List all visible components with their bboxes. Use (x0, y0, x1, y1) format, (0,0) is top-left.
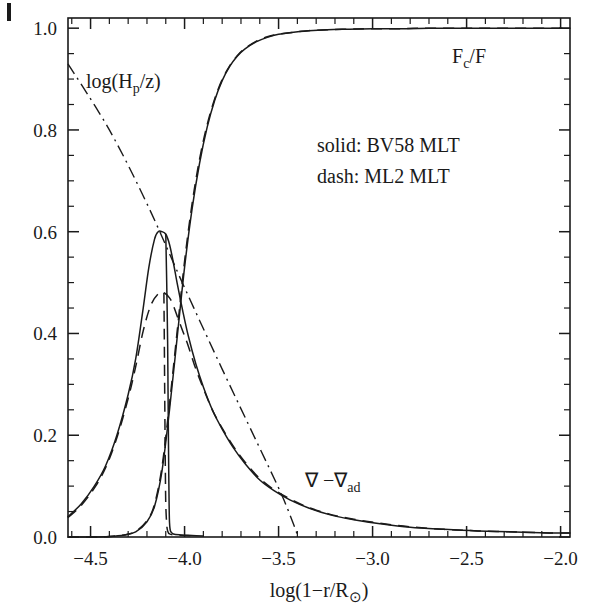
y-tick-label: 1.0 (33, 18, 57, 39)
corner-artifact-mark (7, 3, 11, 21)
figure-container: −4.5−4.0−3.5−3.0−2.5−2.0 0.00.20.40.60.8… (0, 0, 590, 612)
x-tick-label: −2.0 (543, 548, 577, 569)
x-tick-label: −3.5 (261, 548, 295, 569)
annotation-text: F (452, 45, 463, 67)
annotation-subscript: p (133, 81, 140, 96)
y-tick-label: 0.0 (33, 527, 57, 548)
plot-canvas: −4.5−4.0−3.5−3.0−2.5−2.0 0.00.20.40.60.8… (0, 0, 590, 612)
y-tick-label: 0.8 (33, 120, 57, 141)
x-tick-label: −2.5 (449, 548, 483, 569)
x-label-minus: − (312, 579, 323, 601)
x-tick-label: −4.0 (167, 548, 201, 569)
x-tick-label: −3.0 (355, 548, 389, 569)
annotation-text: /z) (140, 70, 161, 93)
annotation-text: log(H (86, 70, 133, 93)
x-label-text: ) (362, 579, 369, 602)
legend-entry-dash: dash: ML2 MLT (317, 165, 450, 187)
x-label-text: r/R (323, 579, 349, 601)
y-tick-label: 0.6 (33, 222, 57, 243)
y-tick-label: 0.2 (33, 425, 57, 446)
annotation-text: /F (469, 45, 486, 67)
solar-symbol-icon: ⊙ (349, 589, 362, 605)
annotation-text: ∇ −∇ (304, 469, 348, 491)
y-tick-label: 0.4 (33, 323, 57, 344)
x-label-text: log(1 (270, 579, 312, 602)
annotation-subscript: ad (347, 480, 360, 495)
legend-entry-solid: solid: BV58 MLT (317, 134, 460, 156)
x-tick-label: −4.5 (73, 548, 107, 569)
